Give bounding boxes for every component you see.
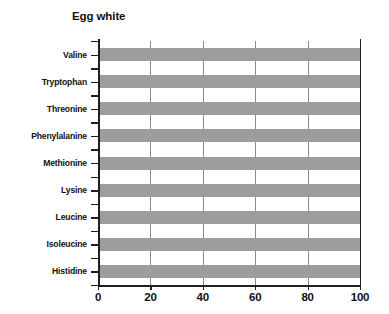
x-axis-tick bbox=[255, 286, 256, 290]
x-axis-tick bbox=[360, 286, 361, 290]
y-axis-tick-boundary bbox=[91, 95, 98, 96]
plot-area bbox=[98, 41, 360, 285]
bars-layer bbox=[98, 41, 360, 285]
bar bbox=[98, 238, 360, 251]
bar bbox=[98, 102, 360, 115]
x-axis-line bbox=[98, 285, 361, 287]
bar bbox=[98, 211, 360, 224]
bar-row bbox=[98, 129, 360, 142]
y-axis-label: Phenylalanine bbox=[31, 131, 87, 141]
bar bbox=[98, 157, 360, 170]
y-axis-tick-boundary bbox=[91, 68, 98, 69]
y-axis-tick bbox=[91, 217, 98, 218]
bar-row bbox=[98, 157, 360, 170]
bar-row bbox=[98, 48, 360, 61]
y-axis-tick bbox=[91, 163, 98, 164]
bar-row bbox=[98, 75, 360, 88]
y-axis-tick-boundary bbox=[91, 285, 98, 286]
right-axis-line bbox=[360, 39, 362, 287]
chart-title: Egg white bbox=[72, 10, 125, 22]
y-axis-label: Valine bbox=[63, 50, 87, 60]
x-axis-tick-label: 60 bbox=[249, 291, 261, 303]
y-axis-label: Threonine bbox=[47, 104, 87, 114]
y-axis-tick bbox=[91, 82, 98, 83]
y-axis-label: Lysine bbox=[61, 185, 87, 195]
bar-row bbox=[98, 102, 360, 115]
x-axis-tick bbox=[150, 286, 151, 290]
x-axis-tick-label: 0 bbox=[95, 291, 101, 303]
y-axis-tick bbox=[91, 136, 98, 137]
bar-row bbox=[98, 265, 360, 278]
y-axis-tick-boundary bbox=[91, 149, 98, 150]
y-axis-tick bbox=[91, 244, 98, 245]
y-axis-label: Tryptophan bbox=[42, 77, 87, 87]
y-axis-tick bbox=[91, 109, 98, 110]
y-axis-label: Methionine bbox=[43, 158, 87, 168]
bar-chart-figure: Egg white ValineTryptophanThreoninePheny… bbox=[0, 0, 389, 314]
bar bbox=[98, 129, 360, 142]
y-axis-label: Histidine bbox=[52, 266, 87, 276]
y-axis-tick bbox=[91, 271, 98, 272]
y-axis-tick-boundary bbox=[91, 231, 98, 232]
y-axis-tick-boundary bbox=[91, 41, 98, 42]
y-axis-tick-boundary bbox=[91, 258, 98, 259]
bar bbox=[98, 48, 360, 61]
y-axis-tick bbox=[91, 190, 98, 191]
x-axis-tick bbox=[203, 286, 204, 290]
x-axis-tick-label: 100 bbox=[351, 291, 370, 303]
y-axis-label: Leucine bbox=[56, 212, 87, 222]
y-axis-line bbox=[98, 39, 100, 287]
x-axis-tick bbox=[98, 286, 99, 290]
y-axis-tick bbox=[91, 55, 98, 56]
bar bbox=[98, 75, 360, 88]
bar bbox=[98, 184, 360, 197]
y-axis-tick-boundary bbox=[91, 122, 98, 123]
x-axis-tick-label: 40 bbox=[197, 291, 209, 303]
x-axis-tick-label: 80 bbox=[301, 291, 313, 303]
bar bbox=[98, 265, 360, 278]
bar-row bbox=[98, 211, 360, 224]
y-axis-tick-boundary bbox=[91, 177, 98, 178]
bar-row bbox=[98, 238, 360, 251]
y-axis-tick-boundary bbox=[91, 204, 98, 205]
x-axis-tick-label: 20 bbox=[144, 291, 156, 303]
x-axis-tick bbox=[308, 286, 309, 290]
bar-row bbox=[98, 184, 360, 197]
y-axis-label: Isoleucine bbox=[46, 239, 87, 249]
